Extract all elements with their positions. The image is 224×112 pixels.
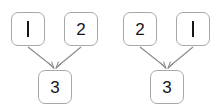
- edge-1-to-3: [168, 47, 193, 69]
- node-3[interactable]: 3: [150, 70, 184, 104]
- node-1-label: 1: [27, 21, 29, 37]
- node-1[interactable]: 1: [176, 12, 210, 46]
- node-1-label: 1: [192, 21, 194, 37]
- edge-2-to-3: [140, 47, 166, 69]
- right-diagram: 2 1 3: [112, 0, 224, 112]
- diagram-canvas: 1 2 3 2 1 3: [0, 0, 224, 112]
- edge-2-to-3: [56, 47, 81, 69]
- left-diagram: 1 2 3: [0, 0, 112, 112]
- node-1[interactable]: 1: [11, 12, 45, 46]
- node-3[interactable]: 3: [38, 70, 72, 104]
- node-2[interactable]: 2: [64, 12, 98, 46]
- edge-1-to-3: [28, 47, 54, 69]
- node-2-label: 2: [135, 21, 144, 38]
- node-3-label: 3: [50, 79, 59, 96]
- node-3-label: 3: [162, 79, 171, 96]
- node-2[interactable]: 2: [123, 12, 157, 46]
- node-2-label: 2: [76, 21, 85, 38]
